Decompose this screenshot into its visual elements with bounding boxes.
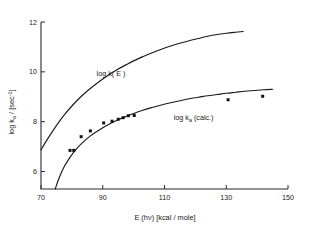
y-tick-label: 12 — [29, 18, 37, 27]
data-point — [127, 114, 130, 117]
y-tick-label: 10 — [29, 67, 37, 76]
data-point — [122, 116, 125, 119]
data-point — [261, 95, 264, 98]
x-tick-label: 110 — [159, 193, 170, 202]
x-tick-label: 70 — [37, 193, 45, 202]
x-axis-title: E (hν) [kcal / mole] — [134, 213, 195, 222]
tick-marks — [41, 22, 288, 189]
data-point — [89, 129, 92, 132]
axes — [41, 22, 288, 189]
plot-area: 7090110130150 681012 log k( E )log ka (c… — [0, 0, 313, 229]
data-point — [133, 114, 136, 117]
data-point — [111, 120, 114, 123]
data-point — [227, 98, 230, 101]
x-tick-label: 150 — [282, 193, 294, 202]
y-tick-label: 8 — [33, 117, 37, 126]
data-point — [80, 135, 83, 138]
curve-log-k-calc- — [55, 89, 272, 189]
curve-log-k-e- — [41, 31, 243, 149]
data-point — [102, 121, 105, 124]
data-point — [69, 149, 72, 152]
x-tick-label: 130 — [220, 193, 232, 202]
y-tick-label: 6 — [33, 167, 37, 176]
x-tick-label: 90 — [99, 193, 107, 202]
curve-label: log ka (calc.) — [174, 113, 214, 123]
curves — [41, 31, 273, 189]
y-tick-labels: 681012 — [29, 18, 37, 177]
axis-spines — [41, 22, 288, 189]
y-axis-title: log ka / [sec-1] — [7, 89, 17, 134]
y-axis-title-text: log ka / [sec-1] — [7, 89, 17, 134]
data-point — [117, 118, 120, 121]
x-tick-labels: 7090110130150 — [37, 193, 294, 202]
figure-container: 7090110130150 681012 log k( E )log ka (c… — [0, 0, 313, 229]
curve-annotations: log k( E )log ka (calc.) — [97, 69, 214, 123]
data-point — [72, 149, 75, 152]
curve-label: log k( E ) — [97, 69, 126, 78]
